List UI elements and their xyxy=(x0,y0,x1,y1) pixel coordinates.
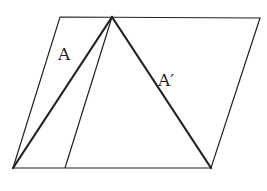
label-a: A xyxy=(57,44,71,64)
label-a-prime: A′ xyxy=(157,70,174,90)
parallelogram xyxy=(13,17,260,168)
parallel-line xyxy=(65,17,112,168)
geometry-diagram: A A′ xyxy=(0,0,267,191)
triangle-right-side xyxy=(112,17,211,168)
triangle-left-side xyxy=(13,17,112,168)
